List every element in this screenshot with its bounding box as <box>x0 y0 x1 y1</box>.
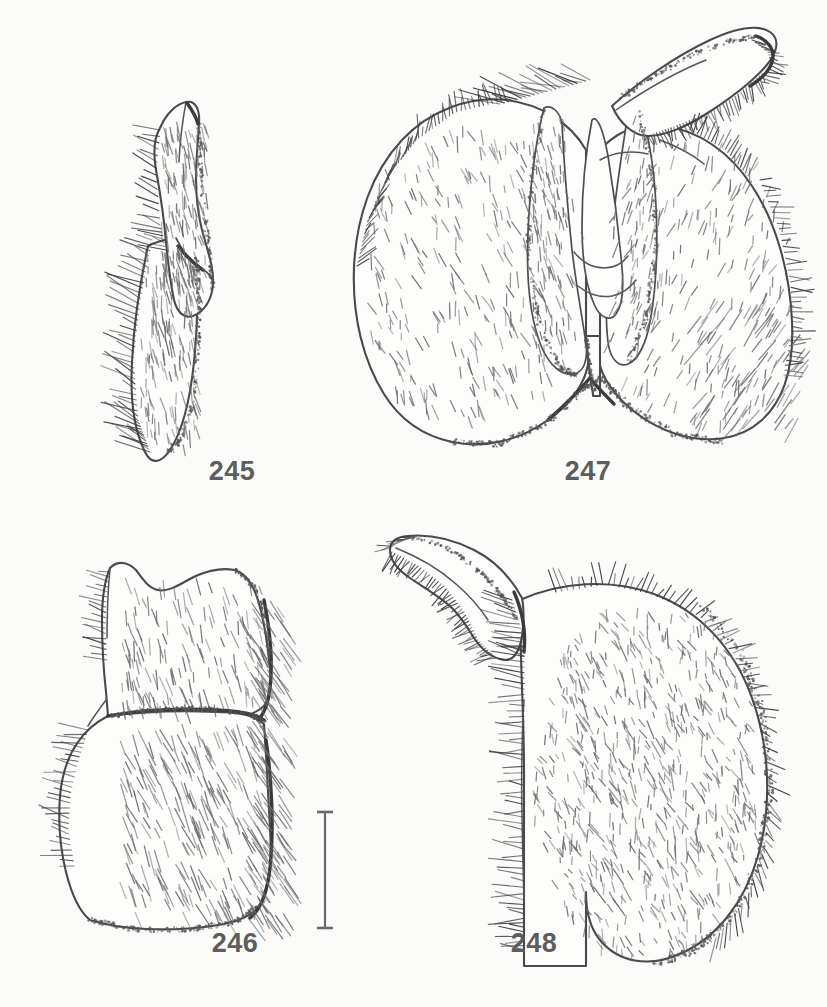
plate-artwork <box>0 0 827 1007</box>
figure-247-drawing <box>354 28 792 445</box>
figure-label-245: 245 <box>209 456 256 487</box>
figure-label-246: 246 <box>212 928 259 959</box>
figure-label-248: 248 <box>511 928 558 959</box>
figure-label-247: 247 <box>565 456 612 487</box>
scale-bar <box>317 812 333 928</box>
illustration-plate: 245 247 246 248 <box>0 0 827 1007</box>
